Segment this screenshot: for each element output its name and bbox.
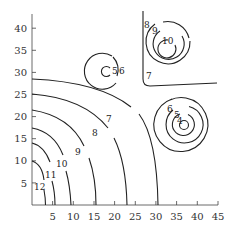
contour-label-12: 12 xyxy=(34,182,45,192)
x-tick-label: 10 xyxy=(67,211,80,222)
bottom-right-minimum-contours: 6 5 4 xyxy=(154,98,208,152)
contour-label-5: 5 xyxy=(112,66,118,76)
contour-label-8: 8 xyxy=(144,20,150,30)
contour-line-5 xyxy=(101,67,110,77)
contour-label-11: 11 xyxy=(45,170,56,180)
contour-label-10: 10 xyxy=(56,159,68,169)
left-minimum-contours: 5 6 xyxy=(84,53,125,89)
contour-label-8: 8 xyxy=(92,128,98,138)
y-tick-label: 25 xyxy=(14,89,27,100)
y-tick-label: 40 xyxy=(14,23,27,34)
y-tick-labels: 5 10 15 20 25 30 35 40 xyxy=(14,23,27,189)
x-tick-label: 40 xyxy=(191,211,204,222)
x-tick-label: 15 xyxy=(88,211,101,222)
x-tick-label: 25 xyxy=(129,211,142,222)
contour-plot: 5 10 15 20 25 30 35 40 45 5 10 15 20 25 … xyxy=(0,0,230,230)
x-tick-label: 20 xyxy=(108,211,121,222)
x-tick-label: 30 xyxy=(150,211,163,222)
y-ticks xyxy=(32,28,36,183)
contour-label-9: 9 xyxy=(75,147,81,157)
y-tick-label: 10 xyxy=(14,155,27,166)
y-tick-label: 20 xyxy=(14,111,27,122)
y-tick-label: 35 xyxy=(14,45,27,56)
contour-label-6: 6 xyxy=(119,66,125,76)
x-tick-label: 35 xyxy=(170,211,183,222)
top-right-maximum-contours: 8 9 10 xyxy=(144,20,190,64)
x-tick-label: 5 xyxy=(49,211,55,222)
x-tick-labels: 5 10 15 20 25 30 35 40 45 xyxy=(49,211,224,222)
y-tick-label: 30 xyxy=(14,67,27,78)
y-tick-label: 5 xyxy=(21,178,27,189)
x-ticks xyxy=(53,201,218,205)
x-tick-label: 45 xyxy=(212,211,225,222)
contour-label-7: 7 xyxy=(106,114,112,124)
contour-label-4: 4 xyxy=(177,116,183,126)
contour-label-7: 7 xyxy=(146,71,152,81)
y-tick-label: 15 xyxy=(14,133,27,144)
contour-label-10: 10 xyxy=(162,36,174,46)
origin-contours xyxy=(32,79,158,205)
contour-label-6: 6 xyxy=(167,104,173,114)
contour-label-9: 9 xyxy=(152,26,158,36)
